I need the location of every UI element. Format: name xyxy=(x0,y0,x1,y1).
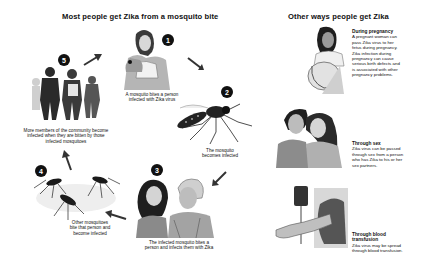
step-2-caption: The mosquito becomes infected xyxy=(192,148,248,159)
step-number-badge: 1 xyxy=(162,34,174,46)
illustration-couple-embracing xyxy=(276,106,344,168)
step-number-badge: 2 xyxy=(221,86,233,98)
illustration-people-walking xyxy=(30,64,102,124)
blood-transfusion-text: Through blood transfusion Zika virus may… xyxy=(352,232,422,254)
pregnancy-text: During pregnancy A pregnant woman can pa… xyxy=(352,29,422,78)
arrow-up-right-icon xyxy=(82,53,104,67)
illustration-blood-transfusion xyxy=(274,184,348,248)
arrow-down-right-icon xyxy=(186,56,206,72)
step-5-caption: More members of the community become inf… xyxy=(16,128,116,144)
sex-text: Through sex Zika virus can be passed thr… xyxy=(352,141,422,168)
illustration-mosquito xyxy=(172,100,256,145)
right-panel-title: Other ways people get Zika xyxy=(288,12,389,21)
illustration-couple-laughing xyxy=(134,176,218,238)
step-number-badge: 3 xyxy=(151,164,163,176)
left-panel-title: Most people get Zika from a mosquito bit… xyxy=(62,12,218,21)
step-4-caption: Other mosquitoes bite that person and be… xyxy=(60,220,120,236)
step-3-caption: The infected mosquito bites a person and… xyxy=(132,240,226,251)
arrow-up-icon xyxy=(62,150,74,172)
illustration-pregnant-woman xyxy=(304,26,350,96)
illustration-mosquitoes-group xyxy=(32,172,120,224)
